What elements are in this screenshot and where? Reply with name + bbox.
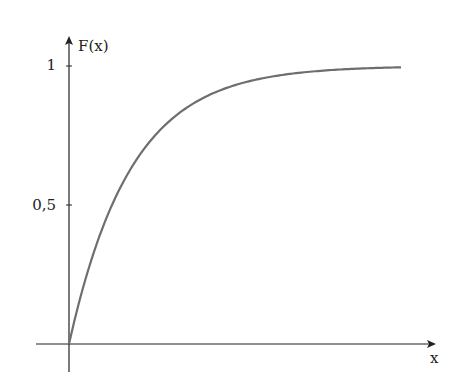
y-axis-label: F(x) bbox=[78, 37, 109, 55]
axes bbox=[36, 36, 436, 372]
cdf-curve bbox=[69, 67, 401, 344]
ytick-label-half: 0,5 bbox=[32, 196, 56, 214]
cdf-chart: F(x) x 1 0,5 bbox=[0, 0, 459, 384]
ytick-label-1: 1 bbox=[46, 56, 56, 74]
x-axis-label: x bbox=[430, 349, 439, 367]
